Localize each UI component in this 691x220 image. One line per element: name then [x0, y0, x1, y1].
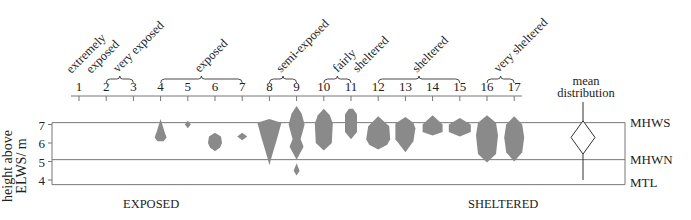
- kite-site-10: [315, 109, 333, 151]
- kite-site-13: [395, 117, 415, 152]
- kite-site-5: [185, 121, 191, 128]
- y-tick-label: 5: [39, 155, 46, 170]
- y-tick-label: 6: [39, 136, 46, 151]
- y-tick-label: 7: [39, 118, 46, 133]
- site-tick-label: 6: [212, 79, 219, 94]
- group-brace: [378, 76, 460, 83]
- ref-level-mhws: MHWS: [630, 115, 670, 131]
- site-tick-label: 14: [426, 79, 440, 94]
- mean-label-line-2: distribution: [548, 87, 624, 99]
- kite-site-11: [345, 109, 357, 140]
- mean-diamond: [571, 121, 595, 154]
- y-axis-label: height above ELWS/ m: [1, 121, 29, 211]
- kite-site-15: [449, 118, 471, 137]
- y-axis-label-line-1: height above: [1, 121, 15, 211]
- site-tick-label: 5: [185, 79, 192, 94]
- site-tick-label: 13: [399, 79, 412, 94]
- group-brace: [161, 76, 243, 83]
- kite-site-6: [208, 133, 222, 152]
- y-axis-label-line-2: ELWS/ m: [15, 121, 29, 211]
- kite-site-9: [289, 106, 305, 160]
- ref-level-mtl: MTL: [630, 175, 657, 191]
- kite-site-8: [257, 119, 281, 165]
- group-label: semi-exposed: [273, 16, 332, 75]
- kite-site-9b: [294, 163, 300, 175]
- y-tick-label: 4: [39, 173, 46, 188]
- mean-distribution-kite: [571, 102, 595, 180]
- kites: [155, 106, 525, 175]
- site-tick-label: 17: [508, 79, 522, 94]
- exposure-groups: extremelyexposedvery exposedexposedsemi-…: [63, 15, 551, 83]
- site-tick-label: 7: [239, 79, 246, 94]
- exposed-axis-label: EXPOSED: [123, 197, 179, 212]
- sheltered-axis-label: SHELTERED: [468, 197, 538, 212]
- kite-site-12: [366, 116, 390, 149]
- ref-level-mhwn: MHWN: [630, 152, 673, 168]
- kite-diagram-figure: 1234567891011121314151617 extremelyexpos…: [0, 0, 691, 220]
- kite-site-7: [237, 133, 247, 140]
- group-label: sheltered: [409, 33, 451, 75]
- kite-diagram-svg: 1234567891011121314151617 extremelyexpos…: [0, 0, 691, 220]
- kite-site-14: [423, 115, 443, 135]
- kite-site-16: [476, 115, 498, 162]
- mean-distribution-label: mean distribution: [548, 75, 624, 99]
- group-label: exposed: [192, 36, 231, 75]
- group-label: very sheltered: [491, 15, 551, 75]
- site-tick-label: 1: [76, 79, 83, 94]
